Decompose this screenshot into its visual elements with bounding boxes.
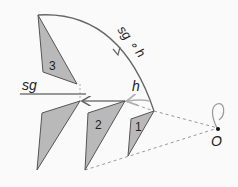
triangle-1-label: 1 xyxy=(135,120,142,134)
triangle-2-label: 2 xyxy=(95,118,102,132)
origin-label: O xyxy=(211,133,222,149)
composition-label: sg ∘ h xyxy=(115,23,149,61)
triangle-3 xyxy=(38,15,77,84)
origin-point xyxy=(216,127,220,131)
transformation-diagram: 3 2 1 sg h sg ∘ h O xyxy=(0,0,238,187)
triangle-2 xyxy=(85,101,125,170)
h-label: h xyxy=(132,78,140,94)
sg-label: sg xyxy=(22,77,37,93)
triangle-sg-image xyxy=(37,101,80,170)
rotation-loop-icon xyxy=(212,104,223,128)
h-arrow xyxy=(128,100,150,101)
arc-arrowhead-icon xyxy=(113,47,120,55)
triangle-3-label: 3 xyxy=(49,59,56,73)
